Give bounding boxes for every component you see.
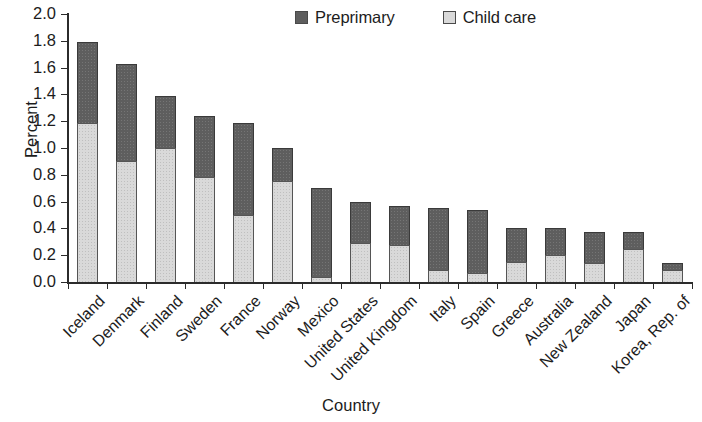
bar-italy[interactable] — [428, 208, 449, 282]
bar-australia[interactable] — [545, 228, 566, 282]
y-axis-tick-label: 1.4 — [33, 84, 56, 103]
bar-new-zealand[interactable] — [584, 232, 605, 282]
bar-segment-preprimary — [194, 116, 215, 178]
y-axis-tick-label: 0.8 — [33, 165, 56, 184]
y-axis-tick-label: 1.0 — [33, 138, 56, 157]
bar-segment-preprimary — [116, 64, 137, 162]
bar-segment-preprimary — [428, 208, 449, 270]
bar-segment-child-care — [662, 270, 683, 282]
bar-segment-child-care — [545, 255, 566, 282]
x-axis-tick — [419, 282, 420, 289]
y-axis-tick: 0.8 — [61, 175, 68, 176]
bar-segment-child-care — [311, 277, 332, 282]
x-axis-tick — [185, 282, 186, 289]
bar-spain[interactable] — [467, 210, 488, 282]
x-axis-tick — [575, 282, 576, 289]
x-axis-tick — [107, 282, 108, 289]
y-axis-tick: 1.2 — [61, 121, 68, 122]
bar-korea-rep-of[interactable] — [662, 263, 683, 282]
x-axis-title: Country — [0, 396, 702, 415]
bar-japan[interactable] — [623, 232, 644, 282]
x-axis-tick — [614, 282, 615, 289]
bar-norway[interactable] — [272, 148, 293, 282]
y-axis-tick-label: 1.6 — [33, 58, 56, 77]
bar-mexico[interactable] — [311, 188, 332, 282]
y-axis-tick: 0.6 — [61, 202, 68, 203]
bar-segment-child-care — [272, 181, 293, 282]
y-axis-tick-label: 0.2 — [33, 245, 56, 264]
x-axis-tick — [536, 282, 537, 289]
bar-segment-child-care — [623, 249, 644, 282]
x-axis-tick — [224, 282, 225, 289]
bar-segment-preprimary — [233, 123, 254, 215]
bar-segment-child-care — [428, 270, 449, 282]
x-axis-tick — [302, 282, 303, 289]
bar-segment-preprimary — [623, 232, 644, 249]
bar-segment-preprimary — [155, 96, 176, 148]
bar-segment-child-care — [467, 273, 488, 282]
bar-segment-child-care — [194, 177, 215, 282]
x-axis-tick — [497, 282, 498, 289]
bar-segment-child-care — [350, 243, 371, 282]
bar-segment-child-care — [77, 123, 98, 282]
bar-greece[interactable] — [506, 228, 527, 282]
bar-france[interactable] — [233, 123, 254, 282]
x-axis-tick — [692, 282, 693, 289]
y-axis-tick: 1.6 — [61, 68, 68, 69]
stacked-bar-chart: Preprimary Child care Percent Country 2.… — [0, 0, 702, 422]
bar-segment-child-care — [506, 262, 527, 282]
x-axis-tick — [341, 282, 342, 289]
y-axis-tick-label: 2.0 — [33, 4, 56, 23]
y-axis-tick: 1.4 — [61, 94, 68, 95]
bar-segment-preprimary — [545, 228, 566, 255]
bar-finland[interactable] — [155, 96, 176, 282]
y-axis-tick-label: 0.6 — [33, 192, 56, 211]
bar-segment-preprimary — [350, 202, 371, 244]
bar-segment-preprimary — [467, 210, 488, 272]
x-axis-tick — [653, 282, 654, 289]
bar-iceland[interactable] — [77, 42, 98, 282]
bar-segment-child-care — [116, 161, 137, 282]
x-axis-label: Italy — [426, 292, 459, 325]
bar-segment-preprimary — [272, 148, 293, 181]
bar-segment-child-care — [233, 215, 254, 282]
bar-segment-child-care — [584, 263, 605, 282]
bar-united-kingdom[interactable] — [389, 206, 410, 282]
y-axis-tick: 2.0 — [61, 14, 68, 15]
y-axis-tick: 0.0 — [61, 282, 68, 283]
y-axis-tick-label: 1.2 — [33, 111, 56, 130]
bar-segment-preprimary — [77, 42, 98, 122]
bar-segment-preprimary — [662, 263, 683, 270]
x-axis-tick — [68, 282, 69, 289]
x-axis-tick — [380, 282, 381, 289]
bar-segment-preprimary — [311, 188, 332, 276]
y-axis-tick: 1.0 — [61, 148, 68, 149]
bar-denmark[interactable] — [116, 64, 137, 282]
bar-segment-preprimary — [389, 206, 410, 246]
plot-area: 2.01.81.61.41.21.00.80.60.40.20.0 Icelan… — [68, 14, 692, 282]
y-axis-tick: 0.4 — [61, 228, 68, 229]
x-axis-tick — [263, 282, 264, 289]
bar-united-states[interactable] — [350, 202, 371, 282]
x-axis-tick — [458, 282, 459, 289]
y-axis-tick-label: 0.0 — [33, 272, 56, 291]
x-axis-tick — [146, 282, 147, 289]
y-axis-tick: 0.2 — [61, 255, 68, 256]
bar-segment-child-care — [389, 245, 410, 282]
bar-segment-preprimary — [584, 232, 605, 263]
y-axis-tick: 1.8 — [61, 41, 68, 42]
bar-segment-preprimary — [506, 228, 527, 262]
y-axis-tick-label: 1.8 — [33, 31, 56, 50]
bar-sweden[interactable] — [194, 116, 215, 282]
bar-segment-child-care — [155, 148, 176, 282]
y-axis-tick-label: 0.4 — [33, 218, 56, 237]
